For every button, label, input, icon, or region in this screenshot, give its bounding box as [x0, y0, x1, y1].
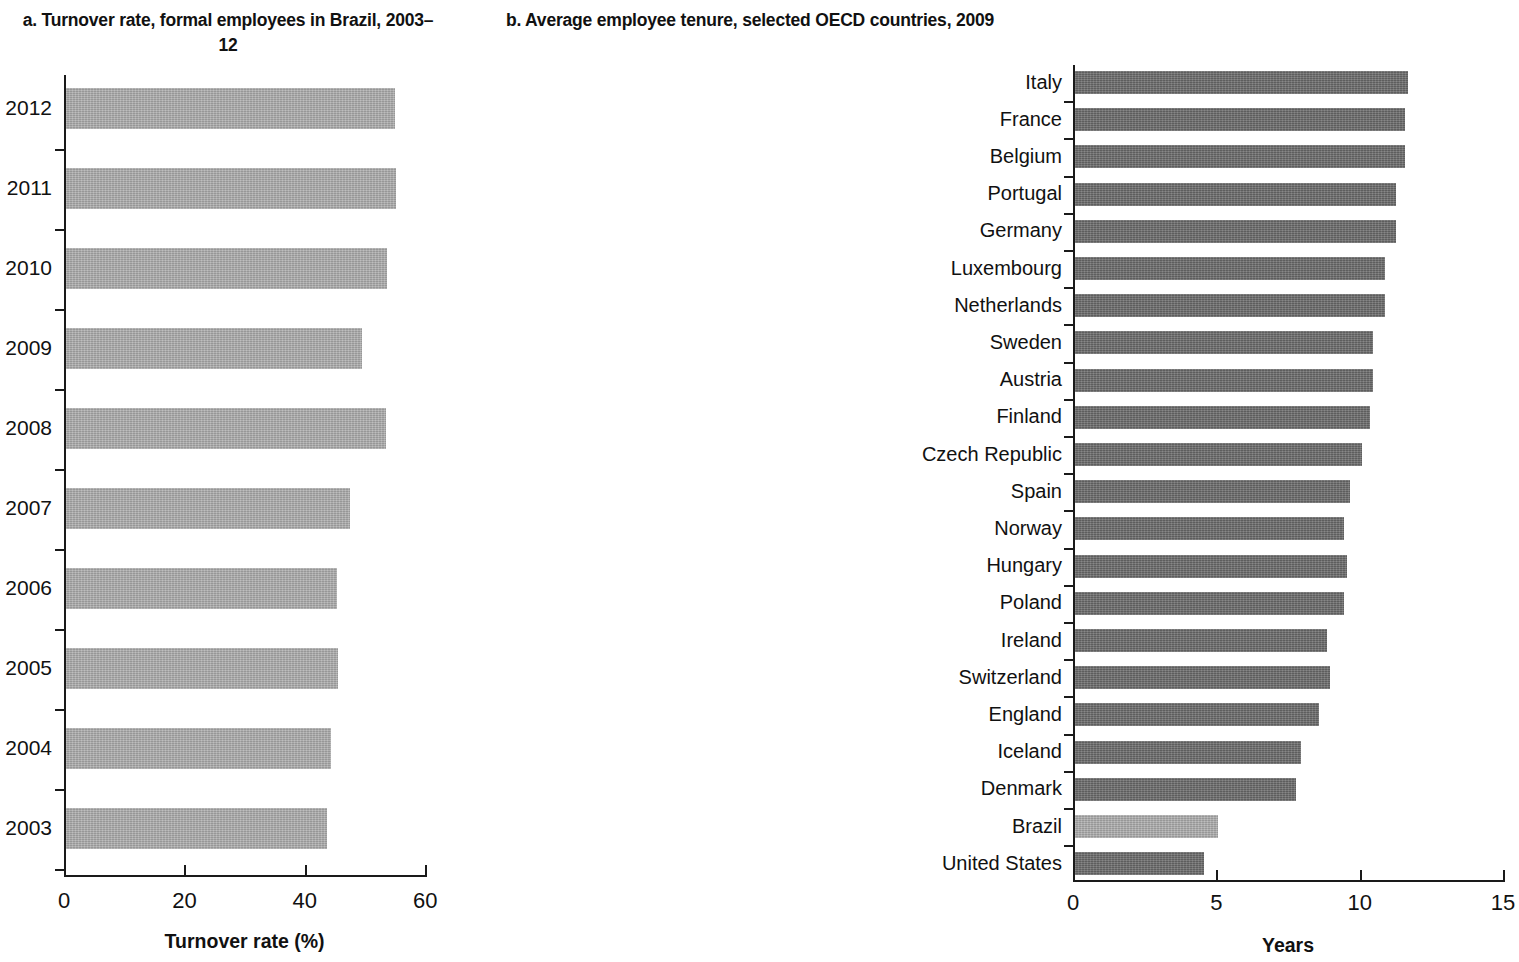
y-axis-tick — [1064, 659, 1075, 661]
y-axis-tick — [1064, 287, 1075, 289]
y-axis-tick — [1064, 696, 1075, 698]
y-axis-tick — [1064, 399, 1075, 401]
category-label-united-states: United States — [470, 853, 1062, 873]
x-axis-tick-label: 0 — [1043, 892, 1103, 914]
category-label-2009: 2009 — [5, 337, 52, 358]
category-label-hungary: Hungary — [470, 555, 1062, 575]
x-axis-tick — [1503, 870, 1505, 882]
bar-united-states — [1075, 852, 1204, 875]
category-label-netherlands: Netherlands — [470, 295, 1062, 315]
panel-a-title: a. Turnover rate, formal employees in Br… — [18, 8, 438, 58]
y-axis-tick — [55, 149, 66, 151]
bar-portugal — [1075, 183, 1396, 206]
panel-a-turnover-rate: a. Turnover rate, formal employees in Br… — [0, 0, 470, 962]
category-label-sweden: Sweden — [470, 332, 1062, 352]
y-axis-tick — [55, 309, 66, 311]
y-axis-tick — [55, 789, 66, 791]
x-axis-tick-label: 10 — [1330, 892, 1390, 914]
panel-b-title: b. Average employee tenure, selected OEC… — [490, 8, 1010, 33]
category-label-england: England — [470, 704, 1062, 724]
bar-sweden — [1075, 331, 1373, 354]
bar-2004 — [66, 728, 331, 769]
category-label-2004: 2004 — [5, 737, 52, 758]
category-label-denmark: Denmark — [470, 778, 1062, 798]
bar-finland — [1075, 406, 1370, 429]
y-axis-tick — [1064, 734, 1075, 736]
panel-b-employee-tenure: b. Average employee tenure, selected OEC… — [470, 0, 1043, 962]
bar-2003 — [66, 808, 327, 849]
category-label-italy: Italy — [470, 72, 1062, 92]
bar-2006 — [66, 568, 337, 609]
x-axis-line — [64, 875, 427, 877]
bar-czech-republic — [1075, 443, 1362, 466]
panel-a-plot-area: 0204060201220112010200920082007200620052… — [0, 70, 440, 890]
category-label-iceland: Iceland — [470, 741, 1062, 761]
category-label-brazil: Brazil — [470, 816, 1062, 836]
y-axis-tick — [1064, 473, 1075, 475]
category-label-2012: 2012 — [5, 97, 52, 118]
panel-b-plot-area: 051015ItalyFranceBelgiumPortugalGermanyL… — [470, 60, 1043, 895]
x-axis-tick — [305, 865, 307, 877]
x-axis-tick-label: 20 — [154, 890, 214, 912]
y-axis-tick — [1064, 101, 1075, 103]
y-axis-tick — [1064, 362, 1075, 364]
category-label-portugal: Portugal — [470, 183, 1062, 203]
category-label-austria: Austria — [470, 369, 1062, 389]
x-axis-tick-label: 15 — [1473, 892, 1519, 914]
category-label-2007: 2007 — [5, 497, 52, 518]
x-axis-title: Turnover rate (%) — [64, 932, 425, 952]
bar-luxembourg — [1075, 257, 1385, 280]
y-axis-tick — [1064, 176, 1075, 178]
category-label-belgium: Belgium — [470, 146, 1062, 166]
y-axis-tick — [1064, 324, 1075, 326]
category-label-germany: Germany — [470, 220, 1062, 240]
bar-italy — [1075, 71, 1408, 94]
x-axis-line — [1073, 880, 1505, 882]
category-label-france: France — [470, 109, 1062, 129]
category-label-finland: Finland — [470, 406, 1062, 426]
y-axis-tick — [1064, 845, 1075, 847]
bar-england — [1075, 703, 1319, 726]
category-label-poland: Poland — [470, 592, 1062, 612]
x-axis-tick-label: 5 — [1186, 892, 1246, 914]
y-axis-tick — [55, 469, 66, 471]
y-axis-tick — [1064, 585, 1075, 587]
bar-france — [1075, 108, 1405, 131]
bar-ireland — [1075, 629, 1327, 652]
y-axis-tick — [1064, 138, 1075, 140]
x-axis-tick — [184, 865, 186, 877]
x-axis-tick-label: 60 — [395, 890, 455, 912]
x-axis-tick-label: 0 — [34, 890, 94, 912]
y-axis-tick — [1064, 548, 1075, 550]
category-label-2005: 2005 — [5, 657, 52, 678]
y-axis-tick — [1064, 250, 1075, 252]
category-label-2008: 2008 — [5, 417, 52, 438]
bar-2008 — [66, 408, 386, 449]
x-axis-tick-label: 40 — [275, 890, 335, 912]
category-label-norway: Norway — [470, 518, 1062, 538]
bar-austria — [1075, 369, 1373, 392]
bar-2012 — [66, 88, 395, 129]
bar-netherlands — [1075, 294, 1385, 317]
category-label-2003: 2003 — [5, 817, 52, 838]
x-axis-title: Years — [1073, 936, 1503, 956]
category-label-spain: Spain — [470, 481, 1062, 501]
bar-norway — [1075, 517, 1344, 540]
bar-germany — [1075, 220, 1396, 243]
bar-brazil — [1075, 815, 1218, 838]
category-label-2006: 2006 — [5, 577, 52, 598]
y-axis-tick — [1064, 808, 1075, 810]
y-axis-tick — [55, 389, 66, 391]
bar-hungary — [1075, 555, 1347, 578]
category-label-luxembourg: Luxembourg — [470, 258, 1062, 278]
category-label-czech-republic: Czech Republic — [470, 444, 1062, 464]
y-axis-tick — [1064, 436, 1075, 438]
y-axis-tick — [1064, 771, 1075, 773]
y-axis-tick — [55, 709, 66, 711]
bar-switzerland — [1075, 666, 1330, 689]
bar-2007 — [66, 488, 350, 529]
y-axis-tick — [1064, 622, 1075, 624]
bar-belgium — [1075, 145, 1405, 168]
x-axis-tick — [425, 865, 427, 877]
